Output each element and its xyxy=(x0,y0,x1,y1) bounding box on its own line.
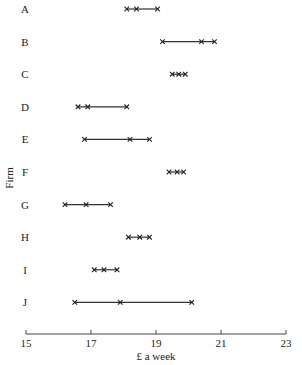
firm-label: C xyxy=(21,68,28,80)
firm-row-f: F xyxy=(22,166,186,178)
firm-label: E xyxy=(22,133,29,145)
x-tick-label: 19 xyxy=(151,337,163,349)
firm-label: B xyxy=(21,36,28,48)
firm-label: J xyxy=(23,296,28,308)
firm-row-d: D xyxy=(21,101,129,113)
y-axis-label: Firm xyxy=(3,167,15,189)
firm-row-j: J xyxy=(23,296,194,308)
firm-label: G xyxy=(21,199,29,211)
firm-row-b: B xyxy=(21,36,216,48)
x-tick-label: 21 xyxy=(216,337,227,349)
x-axis-label: £ a week xyxy=(136,350,176,362)
firm-row-c: C xyxy=(21,68,187,80)
x-tick-label: 15 xyxy=(21,337,33,349)
firm-wage-range-chart: ABCDEFGHIJ 1517192123 £ a week Firm xyxy=(0,0,302,365)
firm-row-i: I xyxy=(23,264,119,276)
firm-row-e: E xyxy=(22,133,152,145)
firm-label: D xyxy=(21,101,29,113)
x-tick-label: 17 xyxy=(86,337,98,349)
firm-label: I xyxy=(23,264,27,276)
firm-label: A xyxy=(21,3,29,15)
firm-row-h: H xyxy=(21,231,152,243)
x-tick-label: 23 xyxy=(281,337,293,349)
firm-row-g: G xyxy=(21,199,113,211)
firm-label: H xyxy=(21,231,29,243)
firm-row-a: A xyxy=(21,3,160,15)
firm-label: F xyxy=(22,166,28,178)
